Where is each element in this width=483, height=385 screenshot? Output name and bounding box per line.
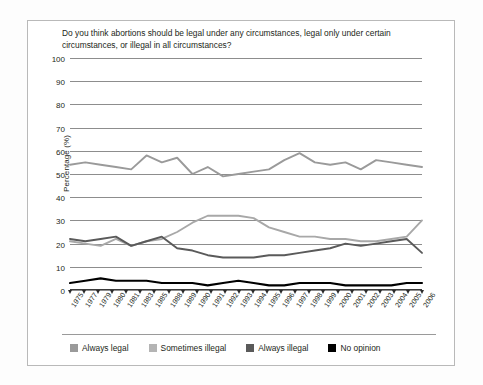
x-tick-mark	[82, 290, 86, 294]
legend-swatch-always-legal	[70, 344, 78, 352]
x-tick-mark	[96, 290, 100, 294]
x-tick-mark	[195, 290, 199, 294]
legend-item-label: Always illegal	[258, 343, 308, 353]
legend-divider	[62, 334, 436, 335]
chart-panel: Do you think abortions should be legal u…	[27, 20, 455, 366]
y-tick-label: 80	[56, 101, 65, 110]
y-tick-label: 20	[56, 240, 65, 249]
x-tick-mark	[336, 290, 340, 294]
legend-item[interactable]: Sometimes illegal	[149, 343, 227, 353]
series-line-always-illegal	[70, 237, 422, 258]
x-tick-mark	[364, 290, 368, 294]
x-tick-mark	[307, 290, 311, 294]
x-tick-mark	[293, 290, 297, 294]
x-tick-mark	[420, 290, 424, 294]
x-tick-mark	[406, 290, 410, 294]
y-tick-label: 30	[56, 217, 65, 226]
legend-item-label: Sometimes illegal	[161, 343, 227, 353]
y-tick-label: 50	[56, 171, 65, 180]
y-tick-label: 90	[56, 78, 65, 87]
x-tick-mark	[181, 290, 185, 294]
y-tick-label: 10	[56, 263, 65, 272]
legend-item[interactable]: Always illegal	[246, 343, 308, 353]
series-line-no-opinion	[70, 278, 422, 285]
x-tick-mark	[124, 290, 128, 294]
x-tick-mark	[321, 290, 325, 294]
x-tick-mark	[167, 290, 171, 294]
chart-legend: Always legalSometimes illegalAlways ille…	[70, 343, 440, 353]
legend-item-label: Always legal	[82, 343, 129, 353]
x-tick-mark	[152, 290, 156, 294]
x-tick-mark	[209, 290, 213, 294]
x-tick-mark	[110, 290, 114, 294]
chart-question-title: Do you think abortions should be legal u…	[62, 28, 412, 51]
y-tick-label: 40	[56, 194, 65, 203]
legend-item[interactable]: No opinion	[328, 343, 380, 353]
x-tick-mark	[237, 290, 241, 294]
x-tick-mark	[251, 290, 255, 294]
y-tick-label: 60	[56, 147, 65, 156]
series-lines	[70, 58, 422, 290]
legend-item[interactable]: Always legal	[70, 343, 129, 353]
chart-page: Do you think abortions should be legal u…	[0, 0, 483, 385]
x-tick-mark	[68, 290, 72, 294]
y-tick-label: 0	[61, 287, 65, 296]
legend-item-label: No opinion	[340, 343, 380, 353]
y-tick-label: 100	[52, 55, 65, 64]
y-tick-label: 70	[56, 124, 65, 133]
x-tick-mark	[138, 290, 142, 294]
legend-swatch-always-illegal	[246, 344, 254, 352]
x-tick-mark	[223, 290, 227, 294]
x-tick-mark	[279, 290, 283, 294]
legend-swatch-sometimes-illegal	[149, 344, 157, 352]
plot-area: 1009080706050403020100 19751977197919801…	[70, 58, 422, 290]
x-tick-mark	[378, 290, 382, 294]
x-tick-mark	[392, 290, 396, 294]
x-tick-mark	[265, 290, 269, 294]
x-tick-mark	[350, 290, 354, 294]
series-line-always-legal	[70, 153, 422, 176]
legend-swatch-no-opinion	[328, 344, 336, 352]
